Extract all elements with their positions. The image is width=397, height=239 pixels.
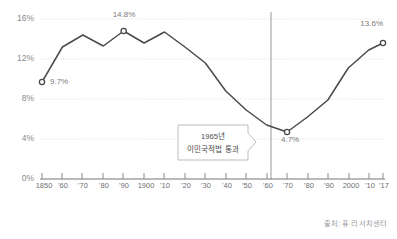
x-tick-label: '70	[283, 181, 293, 190]
callout-box	[178, 125, 256, 160]
callout-1965: 1965년 이민국적법 통과	[178, 125, 256, 160]
data-point-marker	[380, 40, 385, 45]
source-credit: 출처: 퓨 리서치센터	[324, 218, 387, 228]
x-tick-label: 2000	[343, 181, 360, 190]
x-tick-label: '80	[304, 181, 314, 190]
point-label-trough: 4.7%	[281, 135, 299, 144]
x-tick-label: '40	[222, 181, 232, 190]
point-label-peak: 14.8%	[113, 10, 136, 19]
y-tick-label: 0%	[22, 173, 35, 183]
x-tick-label: '70	[78, 181, 88, 190]
gridlines	[40, 19, 385, 139]
y-axis: 16% 12% 8% 4% 0%	[17, 13, 34, 183]
immigrant-share-line-chart: 16% 12% 8% 4% 0%	[0, 0, 397, 239]
x-tick-label: '30	[201, 181, 211, 190]
chart-container: 16% 12% 8% 4% 0%	[0, 0, 397, 239]
data-point-marker	[121, 28, 126, 33]
x-tick-label: '80	[99, 181, 109, 190]
point-label-first: 9.7%	[50, 77, 68, 86]
y-tick-label: 8%	[22, 93, 35, 103]
data-point-markers	[39, 28, 385, 134]
x-axis-ticks	[42, 173, 383, 179]
callout-line1: 1965년	[201, 131, 225, 141]
x-tick-label: 1850	[36, 181, 53, 190]
x-axis-labels: 1850 '60 '70 '80 '90 1900 '10 '20 '30 '4…	[36, 181, 389, 190]
x-tick-label: 1900	[138, 181, 155, 190]
x-tick-label: '20	[181, 181, 191, 190]
data-point-marker	[39, 79, 44, 84]
x-tick-label: '60	[263, 181, 273, 190]
x-tick-label: '50	[242, 181, 252, 190]
callout-line2: 이민국적법 통과	[187, 144, 238, 154]
data-point-marker	[284, 129, 289, 134]
x-tick-label: '10	[365, 181, 375, 190]
data-line	[42, 31, 383, 132]
y-tick-label: 4%	[22, 133, 35, 143]
y-tick-label: 12%	[17, 53, 34, 63]
point-label-last: 13.6%	[360, 19, 383, 28]
x-tick-label: '60	[58, 181, 68, 190]
x-tick-label: '90	[324, 181, 334, 190]
y-tick-label: 16%	[17, 13, 34, 23]
x-tick-label: '17	[379, 181, 389, 190]
x-tick-label: '90	[119, 181, 129, 190]
x-tick-label: '10	[160, 181, 170, 190]
